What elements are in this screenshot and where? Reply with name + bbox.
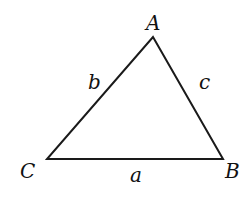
side-label-a: a [130, 163, 142, 187]
triangle-shape [47, 37, 223, 159]
vertex-label-b: B [224, 159, 240, 183]
side-label-c: c [199, 70, 210, 94]
vertex-label-c: C [20, 159, 35, 183]
side-label-b: b [88, 70, 101, 94]
vertex-label-a: A [144, 11, 160, 35]
triangle-diagram: A B C a b c [0, 0, 249, 197]
